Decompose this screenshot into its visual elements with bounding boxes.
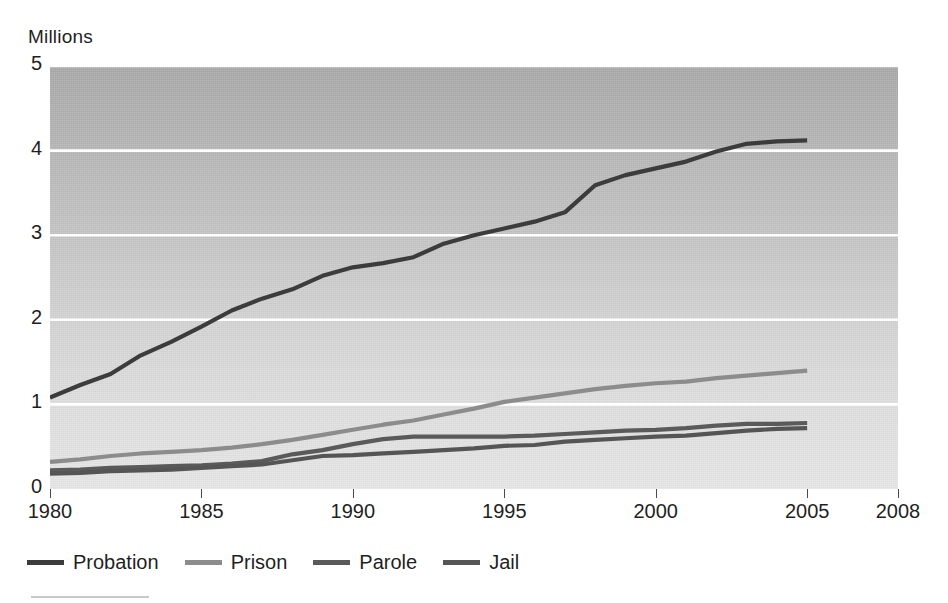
- legend-item-probation[interactable]: Probation: [27, 551, 159, 574]
- x-tick-label: 1995: [482, 500, 527, 523]
- chart-legend: ProbationPrisonParoleJail: [27, 551, 545, 574]
- x-tick-label: 2005: [785, 500, 830, 523]
- y-tick-label: 4: [8, 137, 42, 160]
- y-tick-label: 1: [8, 390, 42, 413]
- footer-divider-rule: [31, 596, 149, 598]
- legend-label: Parole: [359, 551, 417, 574]
- legend-swatch-icon: [313, 560, 350, 565]
- x-tick-mark: [50, 489, 51, 498]
- legend-label: Probation: [73, 551, 159, 574]
- legend-label: Prison: [231, 551, 288, 574]
- x-tick-mark: [898, 489, 899, 498]
- y-tick-label: 2: [8, 306, 42, 329]
- series-line-parole: [50, 423, 807, 470]
- series-lines-group: [50, 140, 807, 473]
- x-tick-mark: [201, 489, 202, 498]
- legend-swatch-icon: [27, 560, 64, 565]
- x-tick-label: 1985: [179, 500, 224, 523]
- legend-item-parole[interactable]: Parole: [313, 551, 417, 574]
- x-tick-label: 1990: [331, 500, 376, 523]
- series-line-prison: [50, 371, 807, 462]
- legend-item-prison[interactable]: Prison: [185, 551, 288, 574]
- x-tick-mark: [504, 489, 505, 498]
- x-tick-label: 2000: [633, 500, 678, 523]
- y-tick-label: 5: [8, 52, 42, 75]
- x-tick-label: 2008: [876, 500, 921, 523]
- x-tick-mark: [807, 489, 808, 498]
- x-tick-mark: [353, 489, 354, 498]
- legend-item-jail[interactable]: Jail: [443, 551, 519, 574]
- plot-lines-svg: [50, 66, 898, 489]
- series-line-probation: [50, 140, 807, 397]
- plot-area: [50, 66, 898, 489]
- legend-label: Jail: [489, 551, 519, 574]
- legend-swatch-icon: [185, 560, 222, 565]
- x-tick-label: 1980: [28, 500, 73, 523]
- y-tick-label: 0: [8, 475, 42, 498]
- y-tick-label: 3: [8, 221, 42, 244]
- chart-figure: Millions 543210 198019851990199520002005…: [0, 0, 948, 603]
- x-tick-mark: [656, 489, 657, 498]
- legend-swatch-icon: [443, 560, 480, 565]
